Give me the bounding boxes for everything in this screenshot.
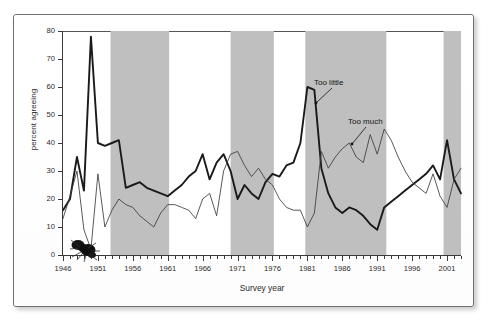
- x-tick-minor: [147, 256, 148, 259]
- plot-area: [63, 31, 461, 255]
- x-tick-major: [307, 256, 308, 261]
- x-tick-minor: [217, 256, 218, 259]
- x-tick-minor: [363, 256, 364, 259]
- annotation-too-little: Too little: [314, 78, 343, 87]
- y-axis-line: [62, 31, 63, 256]
- x-axis-title: Survey year: [63, 283, 461, 293]
- x-tick-minor: [426, 256, 427, 259]
- x-tick-minor: [259, 256, 260, 259]
- x-tick-major: [203, 256, 204, 261]
- x-tick-minor: [140, 256, 141, 259]
- x-tick-minor: [461, 256, 462, 259]
- x-tick-minor: [182, 256, 183, 259]
- screenshot-canvas: 01020304050607080 1946195119561961196619…: [0, 0, 503, 331]
- x-tick-minor: [126, 256, 127, 259]
- line-chart: 01020304050607080 1946195119561961196619…: [14, 15, 473, 306]
- x-tick-minor: [154, 256, 155, 259]
- x-tick-minor: [286, 256, 287, 259]
- x-tick-major: [272, 256, 273, 261]
- figure-frame: 01020304050607080 1946195119561961196619…: [13, 14, 474, 307]
- x-tick-major: [133, 256, 134, 261]
- x-tick-minor: [189, 256, 190, 259]
- x-tick-minor: [175, 256, 176, 259]
- x-tick-minor: [210, 256, 211, 259]
- x-tick-minor: [300, 256, 301, 259]
- x-tick-minor: [433, 256, 434, 259]
- x-axis-line: [62, 255, 461, 256]
- y-tick: [58, 59, 62, 60]
- x-tick-minor: [279, 256, 280, 259]
- y-tick-label: 20: [33, 194, 55, 203]
- x-tick-minor: [440, 256, 441, 259]
- y-tick: [58, 227, 62, 228]
- x-tick-minor: [398, 256, 399, 259]
- x-tick-minor: [356, 256, 357, 259]
- x-tick-minor: [314, 256, 315, 259]
- x-tick-minor: [293, 256, 294, 259]
- x-tick-minor: [112, 256, 113, 259]
- x-tick-minor: [265, 256, 266, 259]
- y-tick-label: 0: [33, 250, 55, 259]
- y-tick: [58, 115, 62, 116]
- y-tick: [58, 171, 62, 172]
- x-tick-minor: [119, 256, 120, 259]
- x-tick-minor: [335, 256, 336, 259]
- x-tick-minor: [454, 256, 455, 259]
- y-tick-label: 80: [33, 26, 55, 35]
- y-tick: [58, 199, 62, 200]
- annotation-too-much: Too much: [348, 117, 383, 126]
- y-tick: [58, 143, 62, 144]
- x-tick-major: [447, 256, 448, 261]
- y-tick: [58, 87, 62, 88]
- x-tick-major: [238, 256, 239, 261]
- x-tick-minor: [391, 256, 392, 259]
- x-tick-minor: [231, 256, 232, 259]
- x-tick-major: [412, 256, 413, 261]
- x-tick-minor: [405, 256, 406, 259]
- y-axis-title: percent agreeing: [29, 60, 38, 180]
- series-lines: [63, 31, 461, 255]
- x-tick-major: [377, 256, 378, 261]
- ink-blot-artifact: [66, 229, 112, 269]
- y-tick: [58, 255, 62, 256]
- x-tick-minor: [321, 256, 322, 259]
- x-tick-minor: [370, 256, 371, 259]
- x-tick-minor: [328, 256, 329, 259]
- x-tick-minor: [252, 256, 253, 259]
- x-tick-major: [168, 256, 169, 261]
- x-tick-minor: [224, 256, 225, 259]
- x-tick-major: [342, 256, 343, 261]
- x-tick-minor: [419, 256, 420, 259]
- x-tick-major: [63, 256, 64, 261]
- series-line-too-little: [63, 37, 461, 230]
- x-tick-minor: [349, 256, 350, 259]
- y-tick-label: 10: [33, 222, 55, 231]
- y-tick: [58, 31, 62, 32]
- x-tick-minor: [384, 256, 385, 259]
- x-tick-minor: [245, 256, 246, 259]
- x-tick-minor: [196, 256, 197, 259]
- x-tick-label: 2001: [427, 264, 467, 273]
- x-tick-minor: [161, 256, 162, 259]
